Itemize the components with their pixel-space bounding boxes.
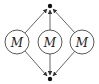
edge-m1-top — [25, 9, 47, 33]
node-m1: M — [5, 30, 29, 54]
node-m3-label: M — [75, 36, 89, 50]
node-m3: M — [70, 30, 94, 54]
edge-m1-bottom — [25, 51, 47, 76]
node-m1-label: M — [10, 36, 24, 50]
bottom-node-dot — [48, 77, 52, 81]
top-node-dot — [48, 4, 52, 8]
node-m2: M — [38, 30, 62, 54]
edge-m3-top — [53, 9, 75, 33]
diagram-canvas: M M M — [0, 0, 99, 84]
edge-m3-bottom — [53, 51, 75, 76]
node-m2-label: M — [43, 36, 57, 50]
